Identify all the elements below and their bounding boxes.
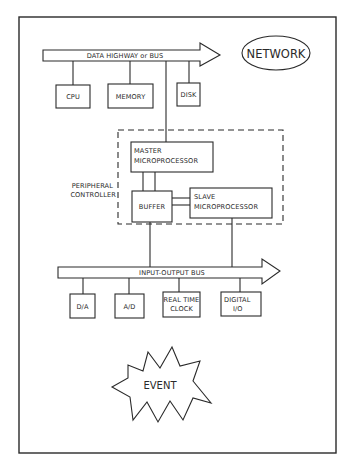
- slave-microprocessor-box: SLAVE MICROPROCESSOR: [190, 188, 272, 218]
- cpu-box: CPU: [56, 85, 90, 108]
- slave-label-line1: SLAVE: [194, 193, 215, 201]
- io-bus-label: INPUT-OUTPUT BUS: [139, 269, 205, 277]
- master-label-line1: MASTER: [134, 147, 162, 155]
- disk-label: DISK: [181, 91, 198, 99]
- network-label: NETWORK: [247, 47, 306, 61]
- network-node: NETWORK: [242, 36, 310, 70]
- buffer-box: BUFFER: [132, 191, 172, 222]
- real-time-clock-box: REAL TIME CLOCK: [163, 292, 200, 317]
- master-label-line2: MICROPROCESSOR: [134, 157, 198, 165]
- slave-label-line2: MICROPROCESSOR: [194, 203, 258, 211]
- peripheral-controller-diagram: DATA HIGHWAY or BUS NETWORK CPU MEMORY D…: [0, 0, 353, 470]
- dio-label-line1: DIGITAL: [224, 296, 251, 304]
- cpu-label: CPU: [66, 93, 80, 101]
- memory-box: MEMORY: [108, 84, 153, 108]
- ad-box: A/D: [115, 294, 144, 318]
- buffer-label: BUFFER: [139, 203, 166, 211]
- master-microprocessor-box: MASTER MICROPROCESSOR: [131, 142, 213, 172]
- peripheral-label-line1: PERIPHERAL: [72, 182, 113, 190]
- da-label: D/A: [76, 303, 88, 311]
- dio-label-line2: I/O: [233, 305, 243, 313]
- memory-label: MEMORY: [116, 93, 146, 101]
- rtc-label-line2: CLOCK: [170, 305, 193, 313]
- peripheral-label-line2: CONTROLLER: [70, 191, 116, 199]
- data-bus-label: DATA HIGHWAY or BUS: [87, 52, 164, 60]
- digital-io-box: DIGITAL I/O: [221, 292, 261, 316]
- disk-box: DISK: [177, 83, 200, 106]
- da-box: D/A: [70, 294, 95, 318]
- rtc-label-line1: REAL TIME: [164, 296, 200, 304]
- ad-label: A/D: [123, 303, 135, 311]
- event-label: EVENT: [143, 380, 177, 391]
